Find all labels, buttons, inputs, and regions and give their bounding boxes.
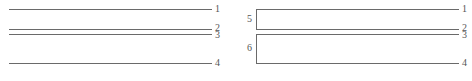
right-line-3: [256, 34, 459, 35]
left-label-1: 1: [215, 4, 220, 14]
left-line-1: [9, 9, 212, 10]
bracket-5-label: 5: [247, 14, 252, 24]
left-label-3: 3: [215, 30, 220, 40]
right-label-1: 1: [462, 4, 467, 14]
right-line-4: [256, 63, 459, 64]
left-label-4: 4: [215, 58, 220, 68]
bracket-6-bar: [256, 34, 257, 64]
right-label-3: 3: [462, 30, 467, 40]
left-line-2: [9, 29, 212, 30]
bracket-5-bar: [256, 9, 257, 30]
right-line-1: [256, 9, 459, 10]
left-line-4: [9, 63, 212, 64]
left-line-3: [9, 34, 212, 35]
right-label-4: 4: [462, 58, 467, 68]
right-line-2: [256, 29, 459, 30]
bracket-6-label: 6: [247, 43, 252, 53]
